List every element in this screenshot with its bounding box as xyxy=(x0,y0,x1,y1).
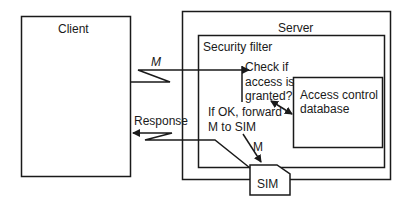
request-arrow xyxy=(130,70,249,82)
security-filter-label: Security filter xyxy=(203,40,272,54)
check-text-line3: granted? xyxy=(245,89,292,103)
forward-text-line2: M to SIM xyxy=(208,120,256,134)
client-box xyxy=(22,17,131,177)
to-sim-m-label: M xyxy=(253,140,263,154)
request-m-label: M xyxy=(151,55,161,69)
forward-text-line1: If OK, forward xyxy=(208,105,282,119)
check-text-line1: Check if xyxy=(245,60,288,74)
response-label: Response xyxy=(134,114,188,128)
access-db-label-line1: Access control xyxy=(300,88,378,102)
sim-label: SIM xyxy=(257,177,278,191)
response-arrow xyxy=(133,133,250,168)
access-db-label-line2: database xyxy=(300,102,349,116)
client-label: Client xyxy=(58,22,89,36)
check-text-line2: access is xyxy=(245,75,294,89)
server-label: Server xyxy=(278,21,313,35)
